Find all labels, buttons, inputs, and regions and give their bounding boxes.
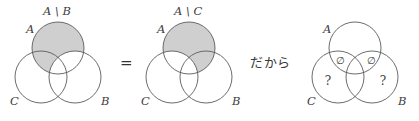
circle-a: [329, 22, 381, 74]
marker-question-c: ?: [325, 74, 331, 88]
venn-panel-1: A \ B A C B: [0, 0, 120, 121]
marker-empty-ac: ∅: [336, 55, 345, 66]
marker-empty-ab: ∅: [367, 55, 376, 66]
panel-caption: A \ B: [42, 4, 71, 18]
set-label-b: B: [397, 94, 406, 108]
set-label-a: A: [25, 22, 34, 36]
set-label-b: B: [231, 94, 240, 108]
connective-dakara: だから: [250, 56, 291, 69]
marker-question-b: ?: [380, 74, 386, 88]
venn-diagram-2: A \ C A C B: [131, 0, 251, 121]
venn-panel-2: A \ C A C B: [131, 0, 251, 121]
venn-identity-figure: A \ B A C B = A \: [0, 0, 419, 121]
venn-diagram-3: ∅ ∅ ? ? A C B: [297, 0, 419, 121]
venn-panel-3: ∅ ∅ ? ? A C B: [297, 0, 417, 121]
panel-caption: A \ C: [173, 4, 202, 18]
venn-diagram-1: A \ B A C B: [0, 0, 120, 121]
set-label-c: C: [141, 94, 150, 108]
set-label-c: C: [307, 94, 316, 108]
set-label-b: B: [100, 94, 109, 108]
set-label-a: A: [156, 22, 165, 36]
set-label-a: A: [322, 22, 331, 36]
set-label-c: C: [10, 94, 19, 108]
